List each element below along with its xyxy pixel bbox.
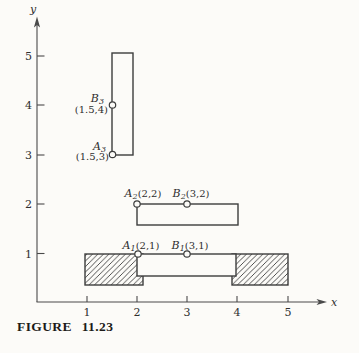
point-a1-marker (135, 251, 141, 257)
y-tick-label-4: 4 (25, 99, 32, 112)
y-tick-label-1: 1 (25, 248, 32, 261)
y-tick-label-3: 3 (25, 149, 32, 162)
point-a3-marker (109, 151, 115, 157)
point-b2-label: B2(3,2) (172, 187, 210, 201)
point-a2-marker (134, 201, 140, 207)
x-tick-label-5: 5 (285, 306, 292, 319)
point-b3-coords: (1.5,4) (75, 104, 108, 115)
left-wall-hatched-block (85, 254, 143, 285)
point-b1-marker (184, 251, 190, 257)
y-tick-label-5: 5 (25, 50, 32, 63)
point-a3-coords: (1.5,3) (76, 151, 109, 162)
point-a2-label: A2(2,2) (124, 187, 162, 201)
x-tick-label-3: 3 (184, 306, 191, 319)
point-b3-marker (109, 102, 115, 108)
y-axis-label: y (29, 3, 37, 16)
figure: y x 5 4 3 2 1 1 2 3 4 5 (0, 0, 359, 353)
point-labels: B3 (1.5,4) A3 (1.5,3) A2(2,2) B2(3,2) A1… (75, 92, 210, 253)
x-tick-label-1: 1 (84, 306, 91, 319)
x-tick-label-4: 4 (234, 306, 241, 319)
point-a1-label: A1(2,1) (122, 239, 160, 253)
point-b1-label: B1(3,1) (171, 239, 209, 253)
x-tick-label-2: 2 (134, 306, 141, 319)
y-tick-label-2: 2 (25, 198, 32, 211)
figure-caption: FIGURE 11.23 (17, 319, 113, 334)
point-b2-marker (184, 201, 190, 207)
x-axis-label: x (331, 296, 338, 309)
right-wall-hatched-block (232, 254, 288, 285)
figure-canvas: y x 5 4 3 2 1 1 2 3 4 5 (0, 0, 359, 353)
